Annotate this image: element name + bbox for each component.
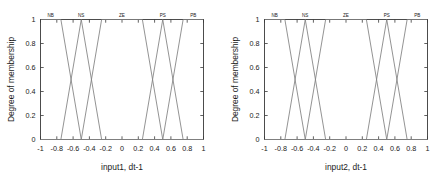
x-tick-label: 0.2 xyxy=(357,144,367,153)
y-axis-title: Degree of membership xyxy=(6,37,16,123)
panel-input2: -1-0.8-0.6-0.4-0.200.20.40.60.8100.20.40… xyxy=(224,0,448,184)
x-tick-label: -0.8 xyxy=(275,144,287,153)
x-tick-label: -0.2 xyxy=(100,144,112,153)
x-tick-label: 0 xyxy=(344,144,348,153)
membership-plot-input1: -1-0.8-0.6-0.4-0.200.20.40.60.8100.20.40… xyxy=(0,0,224,184)
x-tick-label: -0.2 xyxy=(324,144,336,153)
x-tick-label: 0.6 xyxy=(166,144,176,153)
set-label-PB: PB xyxy=(190,13,196,18)
x-tick-label: -0.6 xyxy=(67,144,79,153)
y-tick-label: 0.4 xyxy=(26,87,36,96)
x-tick-label: 0.8 xyxy=(406,144,416,153)
set-label-PS: PS xyxy=(160,13,166,18)
x-tick-label: 0 xyxy=(120,144,124,153)
x-tick-label: 0.2 xyxy=(133,144,143,153)
mf-curve-PS xyxy=(265,20,428,140)
y-tick-label: 0.2 xyxy=(26,111,36,120)
mf-curve-NB xyxy=(41,20,204,140)
x-tick-label: -0.8 xyxy=(51,144,63,153)
x-tick-label: -0.4 xyxy=(83,144,95,153)
x-tick-label: -1 xyxy=(37,144,43,153)
set-label-NS: NS xyxy=(78,13,84,18)
set-label-PB: PB xyxy=(414,13,420,18)
x-tick-label: 1 xyxy=(202,144,206,153)
set-label-ZE: ZE xyxy=(119,13,125,18)
x-tick-label: -0.6 xyxy=(291,144,303,153)
x-tick-label: 0.8 xyxy=(182,144,192,153)
y-tick-label: 0 xyxy=(256,135,260,144)
x-axis-title: input2, dt-1 xyxy=(325,162,367,172)
mf-curve-NB xyxy=(265,20,428,140)
set-label-NS: NS xyxy=(302,13,308,18)
mf-curve-PB xyxy=(265,20,428,140)
y-tick-label: 0.8 xyxy=(26,39,36,48)
set-label-PS: PS xyxy=(384,13,390,18)
set-label-NB: NB xyxy=(47,13,53,18)
panel-input1: -1-0.8-0.6-0.4-0.200.20.40.60.8100.20.40… xyxy=(0,0,224,184)
mf-curve-PB xyxy=(41,20,204,140)
x-tick-label: -0.4 xyxy=(307,144,319,153)
mf-curve-ZE xyxy=(41,20,204,140)
y-tick-label: 1 xyxy=(32,15,36,24)
membership-plot-input2: -1-0.8-0.6-0.4-0.200.20.40.60.8100.20.40… xyxy=(224,0,448,184)
y-tick-label: 0.4 xyxy=(250,87,260,96)
x-tick-label: 0.4 xyxy=(150,144,160,153)
plot-frame xyxy=(41,20,204,140)
x-tick-label: 1 xyxy=(426,144,430,153)
mf-curve-NS xyxy=(41,20,204,140)
series-group xyxy=(265,20,428,140)
y-tick-label: 0 xyxy=(32,135,36,144)
set-label-NB: NB xyxy=(271,13,277,18)
series-group xyxy=(41,20,204,140)
x-tick-label: 0.6 xyxy=(390,144,400,153)
x-tick-label: 0.4 xyxy=(374,144,384,153)
mf-curve-NS xyxy=(265,20,428,140)
x-tick-label: -1 xyxy=(261,144,267,153)
y-tick-label: 0.2 xyxy=(250,111,260,120)
y-tick-label: 0.8 xyxy=(250,39,260,48)
set-label-ZE: ZE xyxy=(343,13,349,18)
y-tick-label: 0.6 xyxy=(26,63,36,72)
y-tick-label: 1 xyxy=(256,15,260,24)
y-tick-label: 0.6 xyxy=(250,63,260,72)
mf-curve-PS xyxy=(41,20,204,140)
figure-container: -1-0.8-0.6-0.4-0.200.20.40.60.8100.20.40… xyxy=(0,0,448,184)
plot-frame xyxy=(265,20,428,140)
mf-curve-ZE xyxy=(265,20,428,140)
x-axis-title: input1, dt-1 xyxy=(101,162,143,172)
y-axis-title: Degree of membership xyxy=(230,37,240,123)
